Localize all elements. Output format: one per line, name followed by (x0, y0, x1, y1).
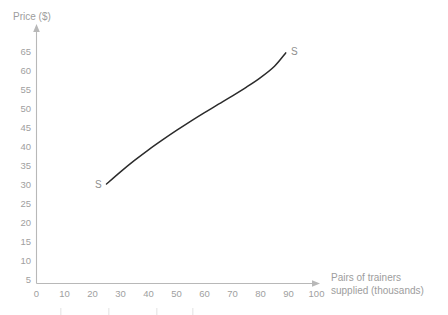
y-tick-label: 5 (26, 274, 31, 285)
supply-label-lower: S (95, 179, 102, 190)
supply-curve-line (107, 53, 286, 184)
y-tick-label: 15 (20, 236, 31, 247)
y-tick-label: 45 (20, 122, 31, 133)
y-axis-arrow-icon (33, 24, 40, 32)
x-tick-label: 10 (59, 288, 70, 299)
supply-label-upper: S (291, 46, 298, 57)
y-tick-label: 10 (20, 255, 31, 266)
page-bleed-marks (60, 308, 194, 315)
y-axis-title: Price ($) (13, 11, 51, 22)
y-tick-label: 60 (20, 65, 31, 76)
x-tick-label: 100 (309, 288, 325, 299)
x-tick-label: 90 (283, 288, 294, 299)
x-tick-label: 80 (255, 288, 266, 299)
x-tick-label: 30 (115, 288, 126, 299)
x-tick-label: 20 (87, 288, 98, 299)
y-tick-label: 40 (20, 141, 31, 152)
x-tick-label: 0 (34, 288, 39, 299)
y-tick-label: 30 (20, 179, 31, 190)
y-tick-label: 50 (20, 103, 31, 114)
x-tick-label: 40 (143, 288, 154, 299)
y-tick-label: 35 (20, 160, 31, 171)
y-tick-label: 55 (20, 84, 31, 95)
y-tick-label: 20 (20, 217, 31, 228)
x-tick-label: 50 (171, 288, 182, 299)
y-tick-label: 25 (20, 198, 31, 209)
x-axis-title-line1: Pairs of trainers (331, 272, 401, 283)
x-axis-title-line2: supplied (thousands) (331, 285, 424, 296)
x-tick-label: 60 (199, 288, 210, 299)
x-axis-tick-labels: 0 10 20 30 40 50 60 70 80 90 100 (34, 288, 325, 299)
chart-canvas: 65 60 55 50 45 40 35 30 25 20 15 10 5 0 … (0, 0, 448, 315)
x-axis-arrow-icon (312, 280, 320, 287)
y-axis-tick-labels: 65 60 55 50 45 40 35 30 25 20 15 10 5 (20, 46, 31, 285)
x-tick-label: 70 (227, 288, 238, 299)
y-tick-label: 65 (20, 46, 31, 57)
supply-curve-chart: 65 60 55 50 45 40 35 30 25 20 15 10 5 0 … (0, 0, 448, 315)
